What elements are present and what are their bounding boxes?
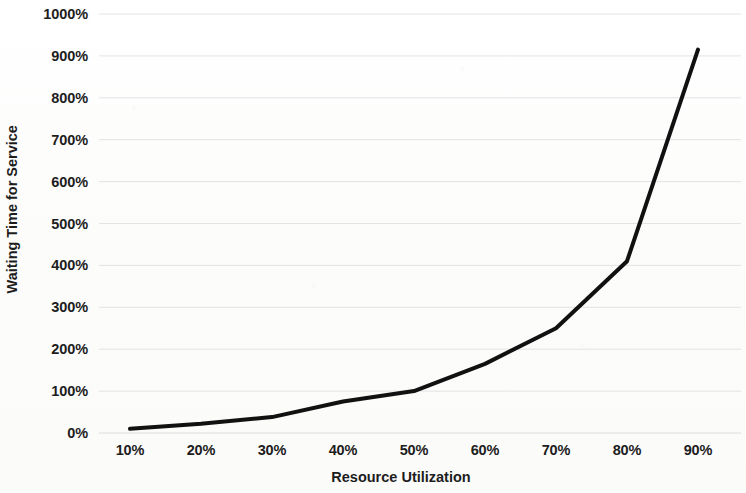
gridlines	[99, 14, 741, 433]
x-axis-tick-label-40: 40%	[313, 443, 373, 458]
plot-area	[0, 0, 746, 493]
chart-container: Waiting Time for Service 1000% 900% 800%…	[0, 0, 746, 493]
x-axis-tick-label-90: 90%	[668, 443, 728, 458]
x-axis-tick-label-10: 10%	[100, 443, 160, 458]
x-axis-tick-label-80: 80%	[597, 443, 657, 458]
x-axis-tick-label-70: 70%	[526, 443, 586, 458]
x-axis-title: Resource Utilization	[0, 470, 746, 485]
x-axis-tick-label-50: 50%	[384, 443, 444, 458]
x-axis-tick-label-30: 30%	[242, 443, 302, 458]
x-axis-tick-label-20: 20%	[171, 443, 231, 458]
x-axis-tick-label-60: 60%	[455, 443, 515, 458]
data-series-waiting-time	[130, 50, 698, 429]
